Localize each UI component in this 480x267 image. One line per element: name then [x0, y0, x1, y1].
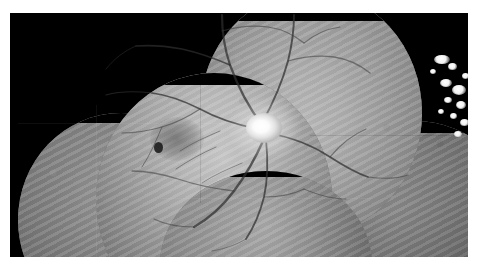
tile-lower-chamfer-top [160, 171, 372, 177]
tile-lower [160, 171, 372, 257]
tile-macula-chamfer-top [96, 73, 332, 85]
optic-disc [246, 113, 282, 143]
exudate-blob [430, 69, 436, 74]
tile-disc-chamfer-top [200, 13, 422, 21]
exudate-blob [452, 85, 466, 95]
exudate-blob [448, 63, 457, 70]
exudate-blob [450, 113, 457, 119]
exudate-blob [462, 73, 468, 79]
exudate-blob [444, 97, 452, 103]
fundus-montage-figure: Retinal fundus photograph montage graysc… [0, 0, 480, 267]
tile-lower-grain [160, 171, 372, 257]
exudate-blob [456, 101, 466, 109]
haemorrhage-dot [154, 142, 163, 153]
exudate-blob [438, 109, 444, 114]
exudate-blob [440, 79, 452, 87]
montage-canvas [10, 13, 468, 257]
exudate-blob [434, 55, 450, 64]
macula [150, 117, 204, 161]
